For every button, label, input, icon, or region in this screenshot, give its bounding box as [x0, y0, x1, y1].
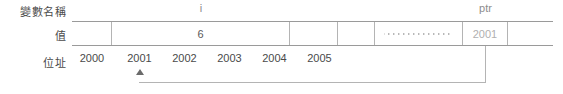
row-label-variable-name: 變數名稱 [0, 3, 66, 19]
ellipsis-dots-icon [384, 33, 454, 35]
memory-cell [375, 22, 463, 45]
address-label: 2001 [117, 52, 162, 64]
memory-cell [72, 22, 112, 45]
pointer-arrow-icon [136, 69, 144, 75]
pointer-connector-vertical [485, 46, 486, 83]
address-label: 2002 [162, 52, 207, 64]
address-label: 2000 [72, 52, 112, 64]
memory-cell: 6 [112, 22, 290, 45]
memory-cell [508, 22, 553, 45]
row-label-value: 值 [0, 27, 66, 43]
memory-cell [338, 22, 375, 45]
address-label: 2005 [297, 52, 342, 64]
address-label: 2004 [252, 52, 297, 64]
pointer-connector-horizontal [139, 82, 486, 83]
memory-cells-table: 6 2001 [72, 21, 553, 46]
memory-cell: 2001 [463, 22, 508, 45]
memory-diagram: 變數名稱 值 位址 i ptr 6 2001 2000 2001 2002 20… [0, 0, 563, 94]
memory-cell [290, 22, 338, 45]
row-label-address: 位址 [0, 54, 66, 70]
variable-name-ptr: ptr [463, 2, 508, 14]
variable-name-i: i [112, 2, 290, 14]
address-label: 2003 [207, 52, 252, 64]
